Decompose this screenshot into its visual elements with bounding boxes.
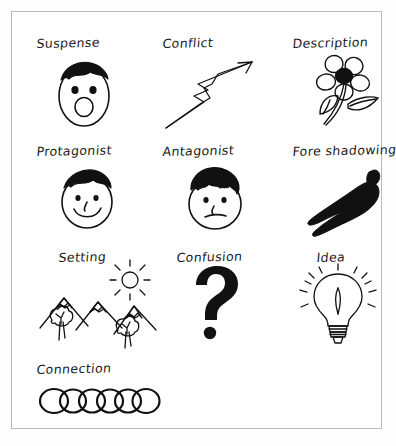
paper-frame: Suspense Conflict xyxy=(11,11,382,429)
surprised-face-icon xyxy=(48,54,122,130)
shadow-figure-icon xyxy=(296,164,388,244)
chain-links-icon xyxy=(38,384,162,418)
lightbulb-icon xyxy=(298,264,378,346)
mountain-landscape-icon xyxy=(34,258,160,350)
item-label-connection: Connection xyxy=(36,362,112,376)
item-label-foreshadowing: Fore shadowing xyxy=(292,144,396,159)
question-mark-icon xyxy=(186,266,244,340)
item-label-description: Description xyxy=(292,36,369,50)
sketch-poster: Suspense Conflict xyxy=(0,0,396,446)
item-label-protagonist: Protagonist xyxy=(36,144,112,158)
item-label-idea: Idea xyxy=(316,251,346,264)
item-label-confusion: Confusion xyxy=(176,251,243,265)
item-label-conflict: Conflict xyxy=(162,37,214,51)
item-label-antagonist: Antagonist xyxy=(162,145,235,159)
item-label-suspense: Suspense xyxy=(36,37,101,51)
frowning-face-icon xyxy=(178,162,254,236)
flower-icon xyxy=(300,52,386,134)
smiling-face-icon xyxy=(52,162,124,234)
lightning-bolt-icon xyxy=(160,54,260,132)
